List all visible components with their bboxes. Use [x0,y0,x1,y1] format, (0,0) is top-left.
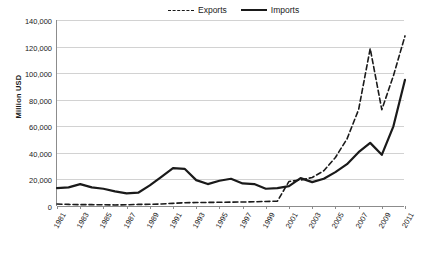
legend-swatch-imports [241,9,267,11]
legend-item-imports: Imports [241,6,299,15]
x-axis-tick-label: 1985 [98,211,114,230]
x-axis-tick-label: 1997 [237,211,253,230]
y-axis-tick-label: 40,000 [29,149,52,158]
x-axis-tick-label: 1987 [121,211,137,230]
x-axis-tick [382,206,383,209]
x-axis-tick [57,206,58,209]
y-gridline: 0 [57,206,404,207]
x-axis-tick [335,206,336,209]
x-axis-tick-label: 1981 [52,211,68,230]
x-axis-tick-label: 1983 [75,211,91,230]
x-axis-tick [80,206,81,209]
y-axis-tick-label: 0 [48,203,52,212]
x-axis-tick-label: 1989 [144,211,160,230]
x-axis-tick-label: 2011 [400,211,416,229]
x-axis-tick [219,206,220,209]
x-axis-tick [103,206,104,209]
legend-item-exports: Exports [168,6,227,15]
y-axis-tick-label: 140,000 [25,17,52,26]
series-line-imports [57,80,405,194]
x-axis-tick-label: 1999 [260,211,276,230]
x-axis-tick-label: 1991 [168,211,184,230]
chart-container: Exports Imports Million USD 020,00040,00… [0,0,426,254]
series-layer [57,20,405,206]
legend-label-exports: Exports [198,6,227,15]
x-axis-tick [196,206,197,209]
chart-legend: Exports Imports [168,6,299,15]
x-axis-tick-label: 1995 [214,211,230,230]
y-axis-tick-label: 80,000 [29,96,52,105]
y-axis-tick-label: 100,000 [25,70,52,79]
x-axis-tick [243,206,244,209]
legend-label-imports: Imports [271,6,299,15]
x-axis-tick [289,206,290,209]
x-axis-tick-label: 2005 [330,211,346,230]
x-axis-tick-label: 2001 [284,211,300,230]
x-axis-tick [150,206,151,209]
x-axis-tick-label: 2007 [353,211,369,230]
y-axis-title: Million USD [14,57,23,137]
y-axis-tick-label: 20,000 [29,176,52,185]
x-axis-tick [405,206,406,209]
x-axis-tick [173,206,174,209]
x-axis-tick [266,206,267,209]
x-axis-tick [312,206,313,209]
x-axis-tick-label: 2003 [307,211,323,230]
x-axis-tick [127,206,128,209]
x-axis-tick [359,206,360,209]
y-axis-tick-label: 120,000 [25,43,52,52]
plot-area: 020,00040,00060,00080,000100,000120,0001… [56,20,404,206]
x-axis-tick-label: 2009 [376,211,392,230]
legend-swatch-exports [168,10,194,11]
y-axis-tick-label: 60,000 [29,123,52,132]
x-axis-tick-label: 1993 [191,211,207,230]
